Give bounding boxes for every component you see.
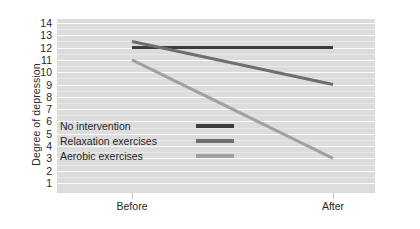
- y-tick-label: 13: [26, 30, 52, 41]
- y-tick-label: 2: [26, 165, 52, 176]
- y-tick-label: 5: [26, 129, 52, 140]
- legend-swatch-row: [194, 134, 234, 148]
- legend-swatches: [194, 119, 234, 164]
- y-tick-label: 14: [26, 18, 52, 29]
- legend-item: Aerobic exercises: [60, 149, 190, 163]
- y-axis-tick-labels: 1413121110987654321: [26, 19, 52, 193]
- legend-swatch-row: [194, 119, 234, 133]
- legend-swatch-row: [194, 149, 234, 163]
- depression-line-chart: Degree of depression 1413121110987654321…: [0, 0, 420, 229]
- y-tick-label: 3: [26, 153, 52, 164]
- y-tick-label: 1: [26, 178, 52, 189]
- y-tick-label: 4: [26, 141, 52, 152]
- x-tick: [333, 193, 334, 199]
- legend-item: No intervention: [60, 119, 190, 133]
- x-tick-label: Before: [117, 200, 148, 212]
- legend-color-swatch: [196, 124, 234, 128]
- legend-item-label: Aerobic exercises: [60, 151, 143, 162]
- legend-item-label: Relaxation exercises: [60, 136, 157, 147]
- plot-area: [57, 19, 375, 193]
- legend-color-swatch: [196, 139, 234, 143]
- y-tick-label: 8: [26, 92, 52, 103]
- legend: No interventionRelaxation exercisesAerob…: [60, 119, 190, 164]
- y-tick-label: 9: [26, 79, 52, 90]
- x-tick: [132, 193, 133, 199]
- series-lines: [57, 19, 375, 193]
- legend-item: Relaxation exercises: [60, 134, 190, 148]
- legend-item-label: No intervention: [60, 121, 131, 132]
- y-tick-label: 6: [26, 116, 52, 127]
- legend-color-swatch: [196, 154, 234, 158]
- y-tick-label: 10: [26, 67, 52, 78]
- y-tick-label: 12: [26, 42, 52, 53]
- y-tick-label: 11: [26, 55, 52, 66]
- x-tick-label: After: [322, 200, 344, 212]
- y-tick-label: 7: [26, 104, 52, 115]
